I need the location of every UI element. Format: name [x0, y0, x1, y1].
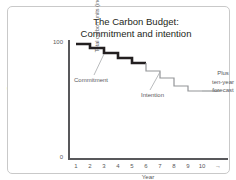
figure-page: 9 The Carbon Budget: Commitment and inte… [0, 0, 236, 180]
figure-frame: The Carbon Budget: Commitment and intent… [7, 6, 230, 174]
chart-title: The Carbon Budget: Commitment and intent… [38, 16, 234, 39]
annotation-forecast-line2: ten-year [212, 79, 234, 85]
leader-line-commitment [94, 54, 104, 75]
annotation-forecast-line3: forecast [212, 87, 233, 93]
x-tick-label-6: 6 [139, 163, 153, 170]
x-tick-label-2: 2 [83, 163, 97, 170]
leader-line-intention [150, 72, 160, 90]
step-series [68, 40, 228, 160]
x-tick-label-4: 4 [111, 163, 125, 170]
chart-title-line2: Commitment and intention [38, 28, 234, 40]
chart-title-line1: The Carbon Budget: [93, 16, 179, 27]
x-tick-label-5: 5 [125, 163, 139, 170]
annotation-intention: Intention [141, 92, 164, 100]
annotation-forecast-line1: Plus [217, 70, 229, 76]
series-intention [146, 63, 202, 91]
x-tick-label-10: 10 [195, 163, 209, 170]
x-tick-labels: 1 2 3 4 5 6 7 8 9 10 → [68, 163, 228, 173]
annotation-forecast: Plus ten-year forecast [206, 69, 236, 95]
x-axis-continuation-arrow: → [210, 163, 226, 170]
x-tick-label-9: 9 [181, 163, 195, 170]
x-tick-label-8: 8 [167, 163, 181, 170]
x-tick-label-7: 7 [153, 163, 167, 170]
annotation-commitment: Commitment [74, 77, 108, 85]
y-tick-label-0: 0 [60, 154, 63, 160]
x-tick-label-1: 1 [69, 163, 83, 170]
plot-area: 100 0 Total carbon units (index) 1 2 3 4… [68, 40, 228, 160]
series-commitment [76, 44, 146, 63]
x-axis-label: Year [68, 173, 228, 180]
x-tick-label-3: 3 [97, 163, 111, 170]
y-tick-label-100: 100 [53, 39, 63, 45]
